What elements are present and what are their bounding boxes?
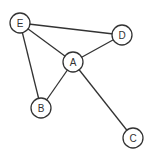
node-d: D [112, 25, 132, 45]
node-label: C [129, 133, 136, 144]
edge-e-d [20, 23, 122, 35]
node-label: A [70, 57, 77, 68]
node-c: C [123, 128, 143, 148]
node-a: A [63, 52, 83, 72]
node-label: D [118, 30, 125, 41]
node-e: E [10, 13, 30, 33]
nodes-layer: EDABC [10, 13, 143, 148]
node-label: E [17, 18, 24, 29]
edge-a-c [73, 62, 133, 138]
node-label: B [38, 103, 45, 114]
node-b: B [31, 98, 51, 118]
graph-diagram: EDABC [0, 0, 152, 157]
